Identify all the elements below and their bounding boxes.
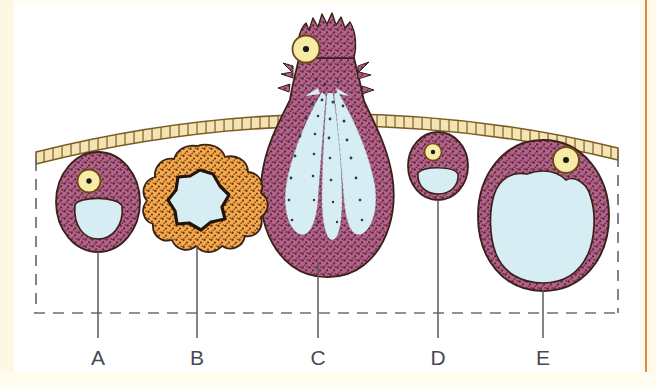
cell-e-vacuole [490,171,594,283]
cell-d-nucleus [425,144,442,161]
cell-e-distended-mucous-cell [478,140,609,291]
cell-a-nucleus [78,170,101,193]
cell-a-immature-mucous-cell [56,152,140,252]
cell-label-b: B [190,346,204,369]
cell-d-vacuole [418,168,458,194]
figure-page: A B C D E [0,0,656,387]
cell-c-discharging-goblet-cell [260,13,393,277]
cell-e-nucleus [553,147,579,173]
cell-label-e: E [536,346,550,369]
cell-label-c: C [310,346,325,369]
cell-label-d: D [430,346,445,369]
cell-c-nucleus [293,36,320,63]
cell-labels: A B C D E [91,346,550,369]
cell-d-small-mucous-cell [408,132,468,200]
cell-b-lobed-orange-cell [143,145,268,252]
cell-sequence-diagram: A B C D E [0,0,656,387]
cell-label-a: A [91,346,105,369]
